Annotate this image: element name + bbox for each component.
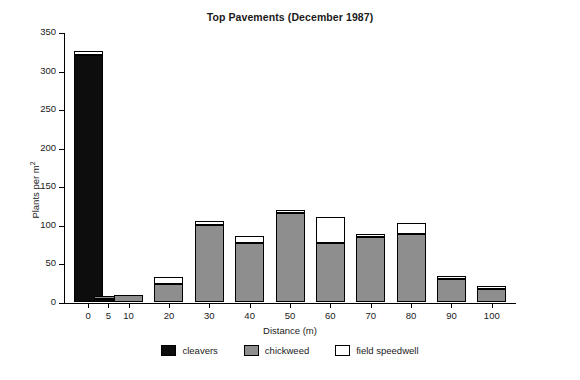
bar-segment-field-speedwell-20 <box>154 277 183 285</box>
x-tick-mark-60 <box>330 303 331 308</box>
bar-segment-chickweed-30 <box>195 225 224 302</box>
x-tick-mark-30 <box>209 303 210 308</box>
y-axis-title-text: Plants per m <box>30 165 41 218</box>
x-tick-label-90: 90 <box>446 310 457 321</box>
x-tick-mark-20 <box>169 303 170 308</box>
y-tick-mark <box>59 72 64 73</box>
y-tick-label: 200 <box>16 142 56 153</box>
y-tick-mark <box>59 303 64 304</box>
x-tick-label-80: 80 <box>406 310 417 321</box>
page-header-sliver: 1987 and March 1988 <box>6 0 166 2</box>
bar-segment-chickweed-80 <box>397 234 426 302</box>
legend-item-field-speedwell[interactable]: field speedwell <box>335 345 418 356</box>
legend-label: cleavers <box>182 345 217 356</box>
plot-area: 050100150200250300350 051020304050607080… <box>64 33 516 303</box>
bar-group-90 <box>437 277 466 302</box>
y-tick-250: 250 <box>59 110 64 111</box>
x-tick-label-50: 50 <box>285 310 296 321</box>
x-tick-label-40: 40 <box>244 310 255 321</box>
bar-group-60 <box>316 217 345 302</box>
y-tick-label: 300 <box>16 65 56 76</box>
bar-group-30 <box>195 221 224 302</box>
y-tick-mark <box>59 264 64 265</box>
legend-label: field speedwell <box>356 345 418 356</box>
chart-title: Top Pavements (December 1987) <box>0 11 580 23</box>
bar-segment-field-speedwell-100 <box>477 286 506 289</box>
y-axis-line <box>64 33 65 304</box>
bar-group-20 <box>154 277 183 302</box>
x-tick-mark-70 <box>371 303 372 308</box>
legend-item-cleavers[interactable]: cleavers <box>161 345 217 356</box>
bar-segment-field-speedwell-70 <box>356 234 385 237</box>
x-tick-label-60: 60 <box>325 310 336 321</box>
bar-group-70 <box>356 235 385 302</box>
legend-swatch-icon <box>161 345 176 356</box>
bar-segment-chickweed-50 <box>276 213 305 302</box>
bar-segment-field-speedwell-90 <box>437 276 466 279</box>
y-tick-mark <box>59 149 64 150</box>
y-tick-label: 50 <box>16 257 56 268</box>
y-tick-100: 100 <box>59 226 64 227</box>
legend-swatch-icon <box>244 345 259 356</box>
y-tick-label: 0 <box>16 296 56 307</box>
bar-segment-field-speedwell-60 <box>316 217 345 242</box>
y-tick-350: 350 <box>59 33 64 34</box>
x-tick-mark-5 <box>108 303 109 308</box>
bar-segment-field-speedwell-50 <box>276 210 305 213</box>
bar-group-80 <box>397 223 426 302</box>
x-tick-label-70: 70 <box>365 310 376 321</box>
bar-segment-chickweed-100 <box>477 289 506 302</box>
x-tick-label-20: 20 <box>164 310 175 321</box>
y-axis-title: Plants per m2 <box>29 161 41 218</box>
bar-group-100 <box>477 287 506 302</box>
bar-segment-chickweed-60 <box>316 243 345 302</box>
chart-legend: cleaverschickweedfield speedwell <box>0 345 580 356</box>
x-tick-label-100: 100 <box>484 310 500 321</box>
bar-segment-field-speedwell-0 <box>74 51 103 55</box>
y-tick-mark <box>59 226 64 227</box>
bar-group-50 <box>276 211 305 302</box>
y-tick-0: 0 <box>59 303 64 304</box>
bar-segment-field-speedwell-30 <box>195 221 224 225</box>
bar-segment-chickweed-40 <box>235 243 264 302</box>
x-tick-mark-100 <box>492 303 493 308</box>
y-tick-label: 100 <box>16 219 56 230</box>
x-tick-mark-10 <box>129 303 130 308</box>
x-tick-mark-40 <box>250 303 251 308</box>
y-axis-title-exponent: 2 <box>29 161 36 165</box>
y-tick-300: 300 <box>59 72 64 73</box>
x-axis-title: Distance (m) <box>64 325 516 336</box>
x-tick-label-0: 0 <box>86 310 91 321</box>
legend-label: chickweed <box>265 345 309 356</box>
bar-segment-field-speedwell-80 <box>397 223 426 235</box>
bar-segment-chickweed-10 <box>114 295 143 302</box>
y-tick-mark <box>59 33 64 34</box>
x-tick-mark-90 <box>451 303 452 308</box>
y-tick-label: 250 <box>16 103 56 114</box>
bar-group-40 <box>235 236 264 302</box>
legend-item-chickweed[interactable]: chickweed <box>244 345 309 356</box>
y-tick-mark <box>59 110 64 111</box>
y-tick-200: 200 <box>59 149 64 150</box>
x-tick-label-5: 5 <box>106 310 111 321</box>
x-tick-label-10: 10 <box>123 310 134 321</box>
x-tick-label-30: 30 <box>204 310 215 321</box>
bar-segment-chickweed-70 <box>356 237 385 302</box>
y-tick-label: 350 <box>16 26 56 37</box>
y-tick-150: 150 <box>59 187 64 188</box>
bar-segment-chickweed-90 <box>437 279 466 302</box>
bar-segment-cleavers-0 <box>74 55 103 302</box>
bar-group-10 <box>114 295 143 302</box>
x-tick-mark-80 <box>411 303 412 308</box>
legend-swatch-icon <box>335 345 350 356</box>
y-tick-mark <box>59 187 64 188</box>
x-tick-mark-50 <box>290 303 291 308</box>
y-tick-50: 50 <box>59 264 64 265</box>
bar-group-0 <box>74 51 103 302</box>
bar-segment-field-speedwell-40 <box>235 236 264 242</box>
bar-segment-chickweed-20 <box>154 284 183 302</box>
x-tick-mark-0 <box>88 303 89 308</box>
